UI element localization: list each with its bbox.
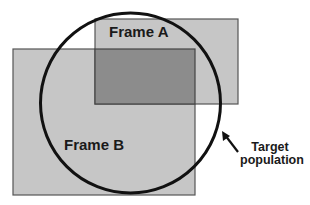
frame-b-label: Frame B — [64, 137, 124, 152]
frame-overlap-rect — [95, 49, 195, 104]
arrow-icon — [222, 131, 238, 152]
frame-a-label: Frame A — [109, 24, 168, 39]
target-population-label: Target population — [240, 141, 300, 166]
target-population-label-line1: Target — [240, 141, 300, 154]
target-population-label-line2: population — [240, 154, 300, 167]
